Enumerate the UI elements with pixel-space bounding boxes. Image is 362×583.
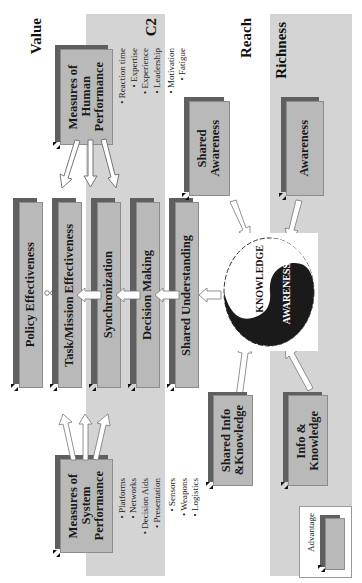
factor-item: • Networks <box>128 478 138 518</box>
value-label: Value <box>28 18 45 54</box>
box-label: Decision Making <box>141 250 154 340</box>
arrow-up-icon <box>58 414 118 460</box>
factor-item: • Fatigue <box>177 48 187 80</box>
factor-item: • Weapons <box>179 478 189 516</box>
policy-effectiveness-box: Policy Effectiveness <box>13 198 44 388</box>
factor-item: • Sensors <box>167 478 177 511</box>
arrow-down-icon <box>55 140 125 190</box>
factor-item: • Reaction time <box>117 48 127 104</box>
factor-item: • Experience <box>140 48 150 94</box>
info-knowledge-box: Info & Knowledge <box>283 392 328 486</box>
box-label: Task/Mission Effectiveness <box>63 224 76 367</box>
awareness-box: Awareness <box>281 97 324 196</box>
resize-corner-icon <box>53 550 60 557</box>
resize-corner-icon <box>11 384 18 391</box>
richness-label: Richness <box>273 22 290 79</box>
arrow-left-icon <box>155 288 179 302</box>
yin-yang-icon <box>222 233 318 351</box>
box-line: Shared Info <box>220 405 233 475</box>
box-label: Shared Understanding <box>180 235 193 356</box>
measures-of-system-performance-box: Measures of System Performance <box>55 455 113 555</box>
box-label: Awareness <box>298 120 311 176</box>
box-line: Knowledge <box>308 411 321 471</box>
shared-awareness-box: Shared Awareness <box>184 97 230 196</box>
factor-item: • Motivation <box>166 48 176 93</box>
box-line: Info & <box>295 411 308 471</box>
box-label: Policy Effectiveness <box>24 242 37 347</box>
factor-item: • Decision Aids <box>140 478 150 534</box>
box-line: Measures of <box>67 62 80 131</box>
measures-of-human-performance-box: Measures of Human Performance <box>55 45 113 148</box>
shared-info-knowledge-box: Shared Info &Knowledge <box>208 392 253 486</box>
box-line: System <box>80 471 93 540</box>
c2-label: C2 <box>143 18 160 36</box>
factor-item: • Platforms <box>117 478 127 518</box>
arrow-left-icon <box>116 288 140 302</box>
yin-yang-diagram: KNOWLEDGE AWARENESS <box>222 233 318 351</box>
legend: Advantage <box>299 506 352 578</box>
box-line: Awareness <box>210 120 223 176</box>
resize-corner-icon <box>167 384 174 391</box>
awareness-label: AWARENESS <box>282 263 293 324</box>
box-line: Human <box>80 62 93 131</box>
factor-item: • Logistics <box>190 478 200 516</box>
arrow-left-icon <box>199 288 221 302</box>
factor-item: • Leadership <box>152 48 162 93</box>
resize-corner-icon <box>50 384 57 391</box>
arrow-left-icon <box>77 288 101 302</box>
resize-corner-icon <box>206 482 213 489</box>
reach-label: Reach <box>238 18 255 58</box>
knowledge-label: KNOWLEDGE <box>255 245 266 313</box>
legend-swatch <box>325 518 345 570</box>
box-line: Performance <box>93 471 106 540</box>
box-line: Measures of <box>67 471 80 540</box>
legend-label: Advantage <box>307 513 316 552</box>
box-line: Performance <box>93 62 106 131</box>
resize-corner-icon <box>89 384 96 391</box>
resize-corner-icon <box>182 193 189 200</box>
box-line: &Knowledge <box>233 405 246 475</box>
box-label: Synchronization <box>102 251 115 338</box>
resize-corner-icon <box>128 384 135 391</box>
factor-item: • Presentation <box>152 478 162 528</box>
resize-corner-icon <box>281 482 288 489</box>
resize-corner-icon <box>279 193 286 200</box>
resize-corner-icon <box>318 565 325 572</box>
arrow-up-icon <box>285 346 315 392</box>
factor-item: • Expertise <box>129 48 139 87</box>
